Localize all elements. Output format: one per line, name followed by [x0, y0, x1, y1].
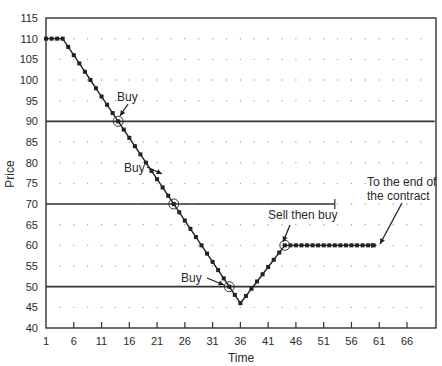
grid-dot [87, 100, 88, 101]
x-tick-label: 21 [151, 335, 163, 347]
data-marker [322, 243, 326, 247]
grid-dot [170, 100, 171, 101]
grid-dot [198, 59, 199, 60]
grid-dot [406, 245, 407, 246]
grid-dot [59, 245, 60, 246]
grid-dot [101, 38, 102, 39]
grid-dot [156, 265, 157, 266]
data-marker [283, 243, 287, 247]
axes-box [46, 18, 436, 328]
grid-dot [337, 183, 338, 184]
data-marker [105, 103, 109, 107]
grid-dot [254, 245, 255, 246]
grid-dot [170, 307, 171, 308]
grid-dot [365, 59, 366, 60]
grid-dot [365, 224, 366, 225]
grid-dot [323, 38, 324, 39]
grid-dot [184, 79, 185, 80]
grid-dot [309, 307, 310, 308]
grid-dot [309, 265, 310, 266]
grid-dot [129, 245, 130, 246]
grid-dot [379, 224, 380, 225]
data-marker [188, 227, 192, 231]
grid-dot [267, 79, 268, 80]
grid-dot [73, 100, 74, 101]
grid-dot [129, 59, 130, 60]
grid-dot [267, 224, 268, 225]
data-marker [249, 287, 253, 291]
grid-dot [351, 38, 352, 39]
data-marker [200, 243, 204, 247]
grid-dot [323, 224, 324, 225]
grid-dot [281, 59, 282, 60]
grid-dot [212, 141, 213, 142]
grid-dot [323, 100, 324, 101]
grid-dot [295, 265, 296, 266]
grid-dot [142, 265, 143, 266]
buy-arrow-90-head [120, 110, 125, 116]
grid-dot [156, 224, 157, 225]
grid-dot [365, 100, 366, 101]
grid-dot [323, 59, 324, 60]
grid-dot [323, 141, 324, 142]
grid-dot [309, 38, 310, 39]
data-marker [44, 37, 48, 41]
grid-dot [392, 59, 393, 60]
grid-dot [240, 245, 241, 246]
x-tick-label: 11 [96, 335, 107, 347]
data-marker [277, 251, 281, 255]
grid-dot [254, 183, 255, 184]
grid-dot [170, 245, 171, 246]
grid-dot [184, 162, 185, 163]
grid-dot [295, 183, 296, 184]
grid-dot [156, 307, 157, 308]
grid-dot [337, 224, 338, 225]
grid-dot [212, 59, 213, 60]
grid-dot [420, 141, 421, 142]
grid-dot [226, 265, 227, 266]
grid-dot [406, 38, 407, 39]
grid-dot [420, 265, 421, 266]
grid-dot [87, 162, 88, 163]
grid-dot [406, 141, 407, 142]
grid-dot [87, 224, 88, 225]
grid-dot [323, 79, 324, 80]
grid-dot [337, 38, 338, 39]
grid-dot [267, 38, 268, 39]
grid-dot [379, 59, 380, 60]
grid-dot [365, 307, 366, 308]
grid-dot [101, 79, 102, 80]
grid-dot [379, 265, 380, 266]
buy-label-90: Buy [117, 90, 138, 104]
grid-dot [87, 141, 88, 142]
grid-dot [392, 265, 393, 266]
grid-dot [198, 100, 199, 101]
grid-dot [226, 141, 227, 142]
grid-dot [212, 162, 213, 163]
grid-dot [281, 38, 282, 39]
grid-dot [267, 183, 268, 184]
y-tick-label: 65 [26, 219, 38, 231]
grid-dot [254, 100, 255, 101]
data-marker [244, 294, 248, 298]
grid-dot [420, 224, 421, 225]
grid-dot [406, 100, 407, 101]
x-tick-label: 56 [345, 335, 357, 347]
grid-dot [240, 59, 241, 60]
y-axis-ticks: 404550556065707580859095100105110115 [20, 12, 38, 334]
grid-dot [198, 265, 199, 266]
grid-dot [420, 307, 421, 308]
grid-dot [59, 59, 60, 60]
grid-dot [184, 245, 185, 246]
grid-dot [420, 100, 421, 101]
grid-dot [392, 100, 393, 101]
data-marker [299, 243, 303, 247]
grid-dot [267, 100, 268, 101]
grid-dot [142, 141, 143, 142]
grid-dot [226, 245, 227, 246]
grid-dot [281, 224, 282, 225]
grid-dot [115, 100, 116, 101]
grid-dot [420, 203, 421, 204]
grid-dot [73, 245, 74, 246]
grid-dot [212, 307, 213, 308]
